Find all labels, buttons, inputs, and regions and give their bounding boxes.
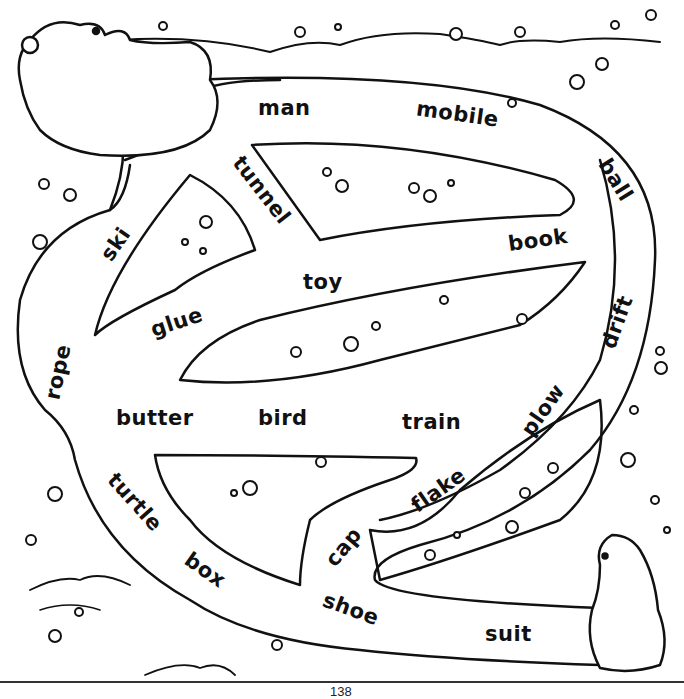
maze-word-butter: butter <box>116 406 194 430</box>
bear-bottom <box>590 535 665 671</box>
maze-word-suit: suit <box>485 622 532 646</box>
page-divider <box>0 681 684 683</box>
page-number: 138 <box>330 684 352 699</box>
maze-word-man: man <box>258 96 311 120</box>
maze-word-toy: toy <box>303 270 343 294</box>
maze-word-bird: bird <box>258 406 308 430</box>
bear-top <box>19 22 218 156</box>
maze-word-train: train <box>402 410 461 434</box>
